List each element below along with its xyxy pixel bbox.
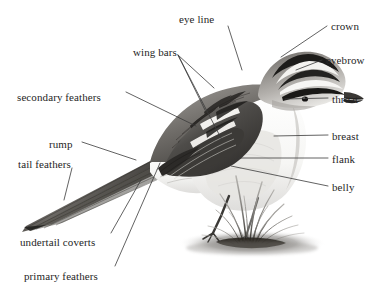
label-eyebrow: eyebrow: [326, 55, 365, 66]
label-belly: belly: [332, 182, 355, 193]
undertail-coverts-leader: [111, 180, 141, 233]
label-crown: crown: [331, 21, 359, 32]
label-breast: breast: [332, 131, 359, 142]
throat-leader: [285, 98, 328, 99]
eyebrow-leader: [296, 60, 322, 70]
crown-leader: [281, 26, 327, 57]
tail-feathers-leader: [64, 168, 72, 200]
belly-leader: [231, 166, 328, 186]
label-undertail-coverts: undertail coverts: [20, 237, 95, 248]
wing-bars-leader-3: [178, 55, 222, 140]
eye-line-leader: [228, 26, 242, 70]
wing-bars-leader-2: [178, 55, 214, 88]
breast-leader: [274, 135, 328, 136]
label-throat: throat: [332, 94, 358, 105]
label-wing-bars: wing bars: [133, 47, 177, 58]
label-eye-line: eye line: [179, 14, 214, 25]
label-secondary-feathers: secondary feathers: [17, 92, 101, 103]
rump-leader: [82, 142, 136, 160]
bird-anatomy-diagram: eye linecrownwing barseyebrowsecondary f…: [0, 0, 387, 298]
label-primary-feathers: primary feathers: [24, 271, 98, 282]
label-rump: rump: [49, 139, 73, 150]
label-tail-feathers: tail feathers: [18, 159, 71, 170]
secondary-feathers-leader: [126, 92, 196, 126]
label-flank: flank: [332, 154, 355, 165]
